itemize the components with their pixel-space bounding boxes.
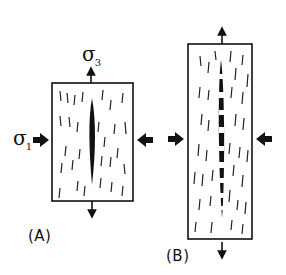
panel-b: [168, 31, 272, 255]
sigma1-arrow-left-b: [168, 132, 184, 146]
sigma3-label: σ3: [82, 44, 102, 64]
sigma1-symbol: σ: [13, 126, 27, 150]
vein-b: [219, 60, 224, 218]
sigma3-symbol: σ: [82, 42, 96, 66]
sigma1-arrow-left-a: [33, 133, 49, 147]
sigma3-subscript: 3: [95, 57, 101, 68]
sigma1-arrow-right-b: [256, 132, 272, 146]
sigma1-subscript: 1: [26, 141, 32, 152]
panel-a: [33, 71, 153, 214]
panel-a-label: (A): [28, 229, 51, 244]
panel-b-label: (B): [166, 249, 190, 264]
sigma1-arrow-right-a: [137, 133, 153, 147]
vein-a: [89, 98, 95, 185]
sigma1-label: σ1: [13, 128, 33, 148]
